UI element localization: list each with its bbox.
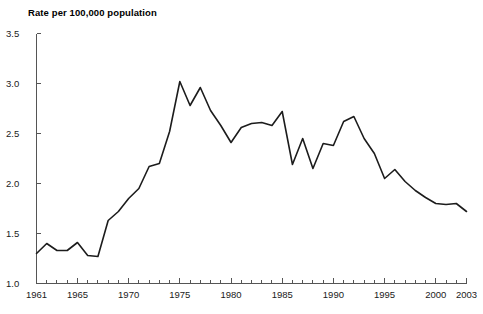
x-tick-label: 1985	[272, 289, 293, 300]
x-tick-label: 2003	[456, 289, 477, 300]
x-tick-label: 1990	[323, 289, 344, 300]
x-tick-label: 1995	[374, 289, 395, 300]
chart-container: Rate per 100,000 population 1.01.52.02.5…	[0, 0, 483, 314]
chart-series	[37, 82, 467, 257]
y-tick-label: 2.0	[6, 178, 19, 189]
y-tick-label: 1.5	[6, 228, 19, 239]
x-tick-label: 1961	[26, 289, 47, 300]
y-tick-label: 3.0	[6, 78, 19, 89]
line-chart-plot: 1.01.52.02.53.03.51961196519701975198019…	[0, 0, 483, 314]
x-tick-label: 1975	[169, 289, 190, 300]
y-tick-label: 2.5	[6, 128, 19, 139]
x-tick-label: 1970	[118, 289, 139, 300]
x-tick-label: 1965	[67, 289, 88, 300]
x-tick-label: 2000	[425, 289, 446, 300]
y-tick-label: 1.0	[6, 278, 19, 289]
x-tick-label: 1980	[220, 289, 241, 300]
y-tick-label: 3.5	[6, 28, 19, 39]
chart-tick-labels: 1.01.52.02.53.03.51961196519701975198019…	[6, 28, 477, 299]
data-line	[37, 82, 467, 257]
